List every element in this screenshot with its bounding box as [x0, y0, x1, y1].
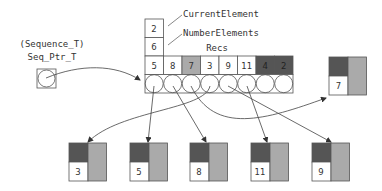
record-box: 3: [69, 143, 107, 181]
recs-array: 5 8 7 3 9 11 4 2: [145, 56, 293, 75]
array-cell: 9: [219, 56, 238, 75]
array-cell: 8: [164, 56, 183, 75]
array-cell: 7: [182, 56, 201, 75]
svg-text:11: 11: [255, 167, 266, 177]
record-box: 11: [251, 143, 289, 181]
svg-text:8: 8: [170, 61, 175, 71]
svg-text:8: 8: [196, 167, 201, 177]
pointer-row: [145, 75, 293, 94]
ptr-name-label: Seq_Ptr_T: [28, 52, 77, 62]
number-elements-leader: [168, 34, 182, 45]
svg-text:9: 9: [318, 167, 323, 177]
recs-label: Recs: [206, 43, 228, 53]
svg-text:3: 3: [207, 61, 212, 71]
svg-text:6: 6: [151, 42, 156, 52]
svg-text:7: 7: [188, 61, 193, 71]
record-box: 5: [130, 143, 168, 181]
svg-text:2: 2: [151, 24, 156, 34]
svg-text:5: 5: [151, 61, 156, 71]
number-elements-cell: 6: [145, 38, 164, 57]
array-cell: 3: [201, 56, 220, 75]
svg-text:3: 3: [75, 167, 80, 177]
seq-ptr-box: [37, 69, 56, 88]
svg-text:4: 4: [262, 61, 267, 71]
number-elements-label: NumberElements: [183, 28, 259, 38]
array-cell: 4: [256, 56, 275, 75]
type-name-label: (Sequence_T): [19, 39, 84, 49]
svg-text:7: 7: [336, 81, 341, 91]
svg-text:11: 11: [241, 61, 252, 71]
svg-text:2: 2: [281, 61, 286, 71]
svg-text:9: 9: [225, 61, 230, 71]
record-arrows: [88, 86, 331, 142]
current-element-leader: [168, 15, 182, 26]
record-box-right: 7: [329, 57, 367, 95]
svg-text:5: 5: [136, 167, 141, 177]
record-box: 9: [312, 143, 350, 181]
array-cell: 2: [275, 56, 294, 75]
current-element-label: CurrentElement: [183, 9, 259, 19]
array-cell: 5: [145, 56, 164, 75]
pointer-arrow: [46, 68, 140, 80]
record-box: 8: [190, 143, 228, 181]
array-cell: 11: [238, 56, 257, 75]
sequence-diagram: (Sequence_T) Seq_Ptr_T CurrentElement Nu…: [0, 0, 382, 191]
current-element-cell: 2: [145, 19, 164, 38]
